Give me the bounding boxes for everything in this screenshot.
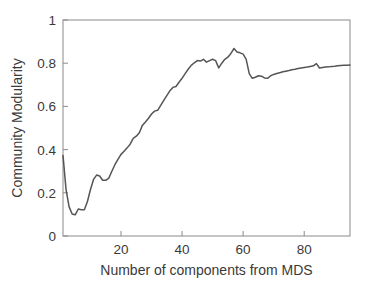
y-axis-tick-labels: 00.20.40.60.81 xyxy=(37,13,56,244)
plot-frame xyxy=(63,20,350,236)
x-tick-label: 60 xyxy=(236,242,251,257)
x-tick-label: 40 xyxy=(175,242,190,257)
plot-axes: 00.20.40.60.81 20406080 xyxy=(37,13,350,257)
x-tick-label: 80 xyxy=(297,242,312,257)
y-tick-label: 0.8 xyxy=(37,56,56,71)
y-tick-label: 0.6 xyxy=(37,99,56,114)
y-tick-label: 0.2 xyxy=(37,186,56,201)
x-tick-label: 20 xyxy=(113,242,128,257)
y-axis-title: Community Modularity xyxy=(9,58,25,197)
y-tick-label: 0.4 xyxy=(37,143,56,158)
y-tick-label: 0 xyxy=(48,229,56,244)
chart-figure: 00.20.40.60.81 20406080 Number of compon… xyxy=(0,0,370,288)
x-axis-title: Number of components from MDS xyxy=(100,262,312,278)
community-modularity-line-chart: 00.20.40.60.81 20406080 Number of compon… xyxy=(0,0,370,288)
x-axis-tick-labels: 20406080 xyxy=(113,242,311,257)
y-tick-label: 1 xyxy=(48,13,56,28)
